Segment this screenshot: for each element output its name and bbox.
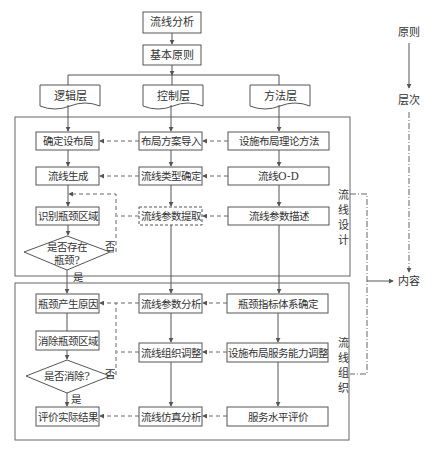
design-title-char: 计: [338, 234, 349, 247]
node-determine-layout: 确定设布局: [36, 132, 99, 150]
decision-2-label: 是否消除?: [44, 370, 90, 382]
layer-tab-method: 方法层: [250, 85, 310, 109]
node-service-level-evaluation-label: 服务水平评价: [248, 411, 309, 423]
node-facility-capacity-adjustment: 设施布局服务能力调整: [227, 343, 329, 362]
decision-2-yes-label: 是: [71, 393, 82, 405]
principle-node-label: 基本原则: [150, 48, 194, 62]
org-title-char: 流: [338, 336, 349, 350]
design-section-title: 流 线 设 计: [338, 188, 349, 247]
branch-connector: [68, 75, 279, 85]
node-evaluate-results: 评价实际结果: [36, 407, 99, 426]
decision-1-line2: 瓶颈?: [54, 254, 80, 266]
legend-content: 内容: [398, 274, 420, 288]
org-title-char: 线: [338, 351, 349, 365]
section-bracket: [350, 194, 367, 374]
node-facility-layout-theory-label: 设施布局理论方法: [239, 135, 319, 147]
layer-tab-logic: 逻辑层: [40, 85, 100, 109]
layer-tab-control: 控制层: [143, 85, 203, 109]
decision-eliminated: 是否消除?: [26, 360, 110, 393]
node-layout-plan-import-label: 布局方案导入: [141, 135, 202, 147]
node-flow-generation: 流线生成: [36, 167, 99, 185]
node-bottleneck-cause-label: 瓶颈产生原因: [38, 298, 98, 310]
node-layout-plan-import: 布局方案导入: [139, 132, 202, 150]
design-title-char: 线: [338, 203, 349, 217]
node-flow-od: 流线O-D: [228, 167, 329, 185]
node-identify-bottleneck: 识别瓶颈区域: [36, 207, 99, 225]
node-service-level-evaluation: 服务水平评价: [227, 407, 328, 426]
decision-2-no-label: 否: [105, 368, 116, 380]
node-eliminate-bottleneck-label: 消除瓶颈区域: [38, 335, 99, 347]
node-evaluate-results-label: 评价实际结果: [38, 411, 99, 423]
node-flow-od-label: 流线O-D: [258, 170, 299, 182]
root-node-label: 流线分析: [150, 15, 194, 29]
node-identify-bottleneck-label: 识别瓶颈区域: [38, 210, 99, 222]
node-flow-param-analysis: 流线参数分析: [139, 294, 202, 313]
node-flow-param-analysis-label: 流线参数分析: [141, 298, 202, 310]
node-flow-simulation-label: 流线仿真分析: [141, 411, 202, 423]
node-flow-param-description: 流线参数描述: [228, 207, 329, 225]
node-bottleneck-index-system: 瓶颈指标体系确定: [227, 294, 328, 313]
node-flow-type-determination-label: 流线类型确定: [141, 170, 202, 182]
node-flow-param-extraction-label: 流线参数提取: [141, 210, 202, 222]
node-facility-layout-theory: 设施布局理论方法: [228, 132, 329, 150]
node-facility-capacity-adjustment-label: 设施布局服务能力调整: [228, 347, 329, 359]
dash-feedback-no-org: [110, 303, 116, 376]
node-flow-type-determination: 流线类型确定: [139, 167, 202, 185]
org-title-char: 组: [338, 366, 349, 380]
node-flow-param-extraction: 流线参数提取: [139, 207, 202, 225]
decision-1-line1: 是否存在: [47, 241, 87, 253]
node-bottleneck-cause: 瓶颈产生原因: [36, 294, 99, 313]
node-flow-org-adjustment: 流线组织调整: [139, 343, 202, 362]
decision-1-no-label: 否: [105, 240, 116, 252]
layer-tab-method-label: 方法层: [264, 89, 297, 103]
node-flow-generation-label: 流线生成: [48, 170, 89, 182]
legend-principle: 原则: [398, 26, 420, 39]
organization-section-title: 流 线 组 织: [338, 336, 349, 395]
flowchart-canvas: 流线分析 基本原则 逻辑层 控制层 方法层 流 线 设 计 确定设布局 布局方案…: [0, 0, 433, 455]
principle-node: 基本原则: [143, 45, 201, 65]
legend-level: 层次: [398, 93, 420, 107]
decision-1-yes-label: 是: [73, 271, 84, 283]
node-bottleneck-index-system-label: 瓶颈指标体系确定: [238, 298, 319, 310]
design-title-char: 设: [338, 219, 349, 232]
node-determine-layout-label: 确定设布局: [43, 135, 93, 147]
node-eliminate-bottleneck: 消除瓶颈区域: [36, 331, 99, 350]
node-flow-param-description-label: 流线参数描述: [249, 210, 310, 222]
decision-bottleneck-exists: 是否存在 瓶颈?: [24, 236, 110, 270]
node-flow-simulation: 流线仿真分析: [139, 407, 202, 426]
layer-tab-control-label: 控制层: [157, 89, 190, 103]
org-title-char: 织: [338, 382, 349, 395]
root-node: 流线分析: [143, 12, 201, 33]
design-title-char: 流: [338, 188, 349, 202]
layer-tab-logic-label: 逻辑层: [54, 89, 87, 103]
node-flow-org-adjustment-label: 流线组织调整: [141, 347, 202, 359]
